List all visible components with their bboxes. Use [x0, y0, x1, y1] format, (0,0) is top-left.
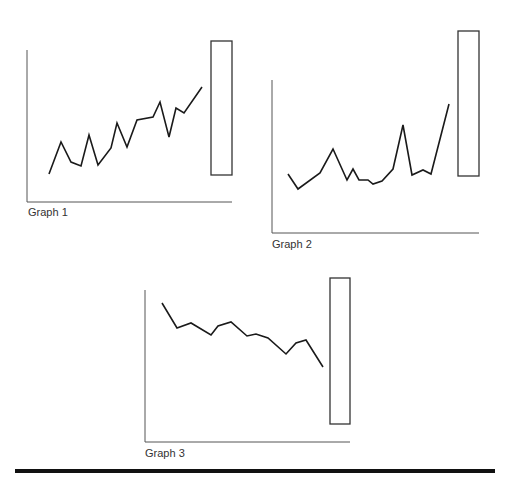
graph-2: [272, 31, 479, 233]
graph-2-bar: [458, 31, 479, 176]
graph-3-line: [162, 303, 323, 367]
graph-3-label: Graph 3: [145, 447, 185, 459]
graphs-canvas: [0, 0, 507, 483]
graph-1-line: [49, 87, 202, 174]
graph-1-axes: [27, 50, 232, 202]
bottom-divider: [15, 469, 495, 473]
graph-2-label: Graph 2: [272, 238, 312, 250]
graph-3-axes: [145, 290, 350, 442]
graph-1: [27, 41, 232, 202]
graph-3: [145, 278, 350, 442]
graph-1-bar: [211, 41, 232, 175]
graph-2-line: [288, 104, 449, 189]
graph-2-axes: [272, 80, 479, 233]
graph-1-label: Graph 1: [28, 206, 68, 218]
graph-3-bar: [330, 278, 350, 424]
